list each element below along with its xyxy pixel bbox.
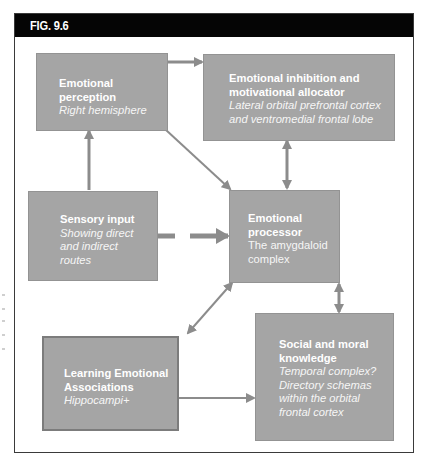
node-subtitle-line: The amygdaloid <box>248 239 328 253</box>
node-learning-associations: Learning Emotional Associations Hippocam… <box>42 336 179 431</box>
node-title-line: Emotional <box>248 212 328 226</box>
node-subtitle-line: and ventromedial frontal lobe <box>229 113 381 127</box>
node-subtitle-line: complex <box>248 253 328 267</box>
figure-header: FIG. 9.6 <box>15 14 413 37</box>
node-title-line: motivational allocator <box>229 86 381 100</box>
node-subtitle-line: Showing direct <box>60 227 135 241</box>
node-subtitle-line: frontal cortex <box>279 406 376 420</box>
figure-label: FIG. 9.6 <box>30 18 69 33</box>
node-subtitle-line: and indirect <box>60 240 135 254</box>
node-subtitle-line: within the orbital <box>279 392 376 406</box>
node-emotional-inhibition: Emotional inhibition and motivational al… <box>203 54 395 141</box>
node-title-line: perception <box>59 91 147 105</box>
page-edge-marks <box>0 290 8 370</box>
node-title-line: Emotional inhibition and <box>229 72 381 86</box>
node-title-line: Emotional <box>59 77 147 91</box>
node-title-line: Associations <box>64 381 168 395</box>
node-subtitle-line: routes <box>60 254 135 268</box>
node-subtitle-line: Temporal complex? <box>279 365 376 379</box>
node-emotional-processor: Emotional processor The amygdaloid compl… <box>229 190 340 283</box>
node-subtitle-line: Lateral orbital prefrontal cortex <box>229 99 381 113</box>
node-social-moral-knowledge: Social and moral knowledge Temporal comp… <box>255 313 394 441</box>
node-title: Sensory input <box>60 213 135 227</box>
node-title-line: Learning Emotional <box>64 367 168 381</box>
node-title-line: processor <box>248 226 328 240</box>
node-subtitle: Hippocampi+ <box>64 394 168 408</box>
node-subtitle-line: Directory schemas <box>279 379 376 393</box>
node-title-line: knowledge <box>279 352 376 366</box>
node-subtitle: Right hemisphere <box>59 104 147 118</box>
node-sensory-input: Sensory input Showing direct and indirec… <box>28 191 158 281</box>
node-emotional-perception: Emotional perception Right hemisphere <box>36 53 168 131</box>
node-title-line: Social and moral <box>279 338 376 352</box>
